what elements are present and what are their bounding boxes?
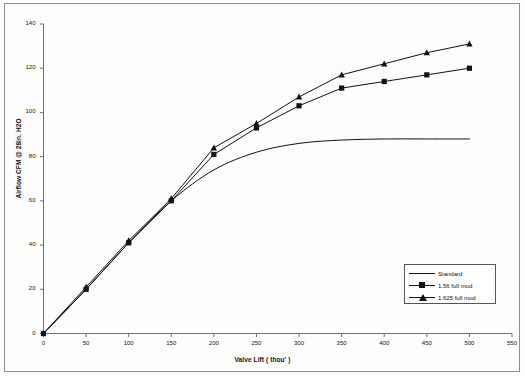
legend-label-156-full-mod: 1.56 full mod — [438, 283, 472, 289]
x-axis-ticks — [44, 334, 513, 338]
legend-item-156-full-mod[interactable]: 1.56 full mod — [409, 280, 491, 291]
x-tick-label: 250 — [243, 340, 269, 346]
legend-item-standard[interactable]: Standard — [409, 268, 491, 279]
chart-container: 020406080100120140 050100150200250300350… — [0, 0, 525, 376]
x-tick-label: 450 — [414, 340, 440, 346]
x-tick-label: 550 — [499, 340, 525, 346]
x-tick-label: 0 — [31, 340, 57, 346]
y-tick-label: 20 — [12, 285, 36, 291]
legend-triangle-marker-icon — [409, 293, 435, 302]
x-tick-label: 150 — [158, 340, 184, 346]
y-axis-ticks — [40, 24, 44, 334]
x-tick-label: 400 — [371, 340, 397, 346]
x-axis-title: Valve Lift ( thou' ) — [0, 356, 525, 363]
x-tick-label: 300 — [286, 340, 312, 346]
legend-item-1625-full-mod[interactable]: 1.625 full mod — [409, 292, 491, 303]
y-axis-title: Airflow CFM @ 28in. H2O — [15, 99, 22, 219]
legend-square-marker-icon — [409, 281, 435, 290]
legend-line-swatch-icon — [409, 269, 435, 278]
y-tick-label: 140 — [12, 20, 36, 26]
chart-legend[interactable]: Standard 1.56 full mod 1.625 full mod — [404, 264, 496, 304]
x-tick-label: 50 — [73, 340, 99, 346]
x-tick-label: 500 — [456, 340, 482, 346]
y-tick-label: 0 — [12, 330, 36, 336]
chart-series-1 — [44, 139, 470, 334]
y-tick-label: 40 — [12, 241, 36, 247]
legend-label-1625-full-mod: 1.625 full mod — [438, 295, 476, 301]
x-tick-label: 200 — [201, 340, 227, 346]
legend-label-standard: Standard — [438, 271, 462, 277]
y-tick-label: 120 — [12, 64, 36, 70]
x-tick-label: 100 — [116, 340, 142, 346]
chart-plot-area — [0, 0, 525, 376]
x-tick-label: 350 — [329, 340, 355, 346]
